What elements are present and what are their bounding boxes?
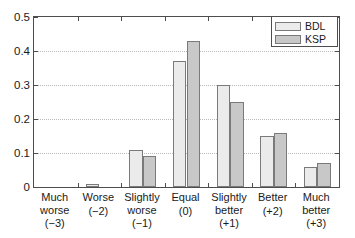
x-tick-label: Muchbetter(+3) (302, 191, 330, 230)
bar-ksp-2 (143, 156, 157, 187)
x-tick-label-line2: better (302, 204, 330, 216)
legend-swatch-ksp (275, 35, 301, 44)
bar-ksp-4 (230, 102, 244, 187)
chart-legend: BDL KSP (271, 16, 338, 47)
legend-label-ksp: KSP (305, 34, 326, 45)
x-tick-label-line1: Much (303, 191, 330, 203)
x-tick-label-value: (+1) (211, 217, 246, 230)
x-tick-label-value: (−1) (124, 217, 159, 230)
bar-ksp-6 (317, 163, 331, 187)
x-tick-label: Better(+2) (258, 191, 287, 217)
y-tick-label: 0 (24, 181, 30, 193)
y-tick-mark (335, 187, 339, 188)
x-tick-label-line1: Worse (83, 191, 115, 203)
x-tick-label: Slightlybetter(+1) (211, 191, 246, 230)
bar-bdl-2 (129, 150, 143, 187)
y-tick-label: 0.2 (14, 113, 30, 125)
legend-item-ksp: KSP (275, 33, 334, 45)
x-tick-label-value: (+3) (302, 217, 330, 230)
x-tick-label-value: (0) (171, 205, 199, 218)
bar-ksp-3 (187, 41, 201, 187)
legend-swatch-bdl (275, 22, 301, 31)
bar-bdl-5 (260, 136, 274, 187)
bar-bdl-4 (217, 85, 231, 187)
x-tick-label-line2: worse (40, 204, 69, 216)
x-tick-label-line1: Slightly (124, 191, 159, 203)
y-tick-label: 0.4 (14, 45, 30, 57)
y-tick-label: 0.1 (14, 147, 30, 159)
x-tick-label-value: (−2) (83, 205, 115, 218)
x-tick-label-line1: Better (258, 191, 287, 203)
legend-label-bdl: BDL (305, 21, 325, 32)
x-tick-label-line1: Equal (171, 191, 199, 203)
legend-item-bdl: BDL (275, 20, 334, 32)
y-tick-label: 0.5 (14, 11, 30, 23)
x-tick-label: Worse(−2) (83, 191, 115, 217)
bar-ksp-5 (274, 133, 288, 187)
x-tick-label-value: (+2) (258, 205, 287, 218)
x-tick-label-line2: worse (127, 204, 156, 216)
x-tick-label: Slightlyworse(−1) (124, 191, 159, 230)
x-tick-label: Muchworse(−3) (40, 191, 69, 230)
bar-bdl-1 (86, 184, 100, 187)
bar-chart-figure: 00.10.20.30.40.5 Muchworse(−3)Worse(−2)S… (0, 0, 355, 238)
x-tick-label-line1: Much (41, 191, 68, 203)
y-tick-label: 0.3 (14, 79, 30, 91)
y-tick-mark (34, 187, 38, 188)
x-tick-label-value: (−3) (40, 217, 69, 230)
x-tick-label-line2: better (215, 204, 243, 216)
bar-bdl-3 (173, 61, 187, 187)
x-tick-label-line1: Slightly (211, 191, 246, 203)
x-tick-label: Equal(0) (171, 191, 199, 217)
bar-bdl-6 (304, 167, 318, 187)
